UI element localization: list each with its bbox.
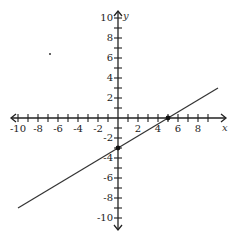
y-tick-label: 8 xyxy=(107,32,113,43)
y-tick-label: 2 xyxy=(107,92,113,103)
x-tick-label: 6 xyxy=(175,123,181,134)
y-intercept-point xyxy=(116,146,121,151)
y-tick-label: 6 xyxy=(107,52,113,63)
x-tick-label: -4 xyxy=(73,123,83,134)
x-tick-label: 2 xyxy=(135,123,141,134)
x-tick-label: 8 xyxy=(195,123,201,134)
y-tick-label: 10 xyxy=(100,12,113,23)
y-tick-label: -8 xyxy=(103,192,113,203)
y-tick-label: -10 xyxy=(97,212,113,223)
speck xyxy=(49,53,51,55)
x-tick-label: -10 xyxy=(10,123,26,134)
coordinate-plane: -10 -8 -6 -4 -2 2 4 6 8 10 8 6 4 2 -2 -4… xyxy=(0,0,237,242)
y-tick-label: -2 xyxy=(103,132,113,143)
y-axis-label: y xyxy=(122,10,129,21)
x-tick-label: -6 xyxy=(53,123,63,134)
x-axis-label: x xyxy=(222,122,228,133)
x-tick-label: -8 xyxy=(33,123,43,134)
x-intercept-point xyxy=(166,116,171,121)
y-tick-label: -6 xyxy=(103,172,113,183)
y-tick-label: 4 xyxy=(107,72,113,83)
y-axis xyxy=(114,11,122,230)
x-tick-label: -2 xyxy=(93,123,103,134)
